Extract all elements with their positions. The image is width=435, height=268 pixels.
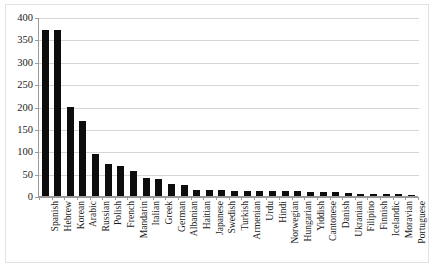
x-axis-tick bbox=[393, 197, 394, 200]
x-axis-tick-label-text: Portuguese bbox=[416, 201, 426, 244]
bar bbox=[282, 191, 289, 196]
bar-slot bbox=[217, 17, 230, 196]
x-axis-tick-label: Polish bbox=[102, 201, 115, 265]
bar-slot bbox=[192, 17, 205, 196]
bar bbox=[294, 191, 301, 196]
x-axis-tick-label: Korean bbox=[64, 201, 77, 265]
x-axis-tick-label: Italian bbox=[140, 201, 153, 265]
x-axis-tick bbox=[165, 197, 166, 200]
x-axis-tick-label: Filipino bbox=[355, 201, 368, 265]
y-axis-tick-label: 350 bbox=[17, 35, 33, 46]
bar-slot bbox=[406, 17, 419, 196]
x-axis-tick-label: Urdu bbox=[254, 201, 267, 265]
x-axis-tick bbox=[279, 197, 280, 200]
y-axis-tick-label: 400 bbox=[17, 13, 33, 24]
bar bbox=[54, 30, 61, 196]
bars-layer bbox=[40, 17, 419, 196]
x-axis-tick bbox=[140, 197, 141, 200]
x-axis-tick bbox=[127, 197, 128, 200]
y-axis-tick-label: 100 bbox=[17, 147, 33, 158]
bar bbox=[193, 190, 200, 196]
x-axis-tick-label: Haitian bbox=[191, 201, 204, 265]
bar-slot bbox=[305, 17, 318, 196]
bar-slot bbox=[331, 17, 344, 196]
x-axis-tick bbox=[52, 197, 53, 200]
x-axis-tick-label: Greek bbox=[153, 201, 166, 265]
bar bbox=[79, 121, 86, 196]
y-axis-tick-label: 300 bbox=[17, 58, 33, 69]
x-axis-tick bbox=[64, 197, 65, 200]
x-axis-tick bbox=[39, 197, 40, 200]
bar-slot bbox=[255, 17, 268, 196]
bar bbox=[92, 154, 99, 196]
bar bbox=[105, 164, 112, 196]
plot-area: 050100150200250300350400 bbox=[38, 18, 418, 197]
bar bbox=[408, 195, 415, 196]
bar bbox=[117, 166, 124, 196]
x-axis-tick-label: Hindi bbox=[266, 201, 279, 265]
x-axis-tick-label: French bbox=[115, 201, 128, 265]
x-axis-tick bbox=[90, 197, 91, 200]
y-axis-tick bbox=[35, 40, 39, 41]
x-axis-tick bbox=[367, 197, 368, 200]
x-axis-labels: SpanishHebrewKoreanArabicRussianPolishFr… bbox=[39, 201, 418, 265]
y-axis-tick bbox=[35, 175, 39, 176]
bar bbox=[67, 107, 74, 196]
bar bbox=[42, 30, 49, 196]
bar-chart: 050100150200250300350400 SpanishHebrewKo… bbox=[0, 0, 435, 268]
bar-slot bbox=[394, 17, 407, 196]
x-axis-tick bbox=[216, 197, 217, 200]
bar-slot bbox=[128, 17, 141, 196]
bar-slot bbox=[53, 17, 66, 196]
x-axis-tick bbox=[405, 197, 406, 200]
x-axis-tick bbox=[292, 197, 293, 200]
x-axis-tick-label: Norwegian bbox=[279, 201, 292, 265]
y-axis-tick-label: 0 bbox=[28, 192, 33, 203]
bar-slot bbox=[179, 17, 192, 196]
x-axis-tick-label: Icelandic bbox=[380, 201, 393, 265]
bar-slot bbox=[381, 17, 394, 196]
x-axis-tick bbox=[317, 197, 318, 200]
bar bbox=[231, 191, 238, 196]
x-axis-tick bbox=[342, 197, 343, 200]
x-axis-tick bbox=[330, 197, 331, 200]
x-axis-tick-label: Yiddish bbox=[304, 201, 317, 265]
x-axis-tick bbox=[203, 197, 204, 200]
x-axis-tick bbox=[115, 197, 116, 200]
x-axis-tick-label: Mandarin bbox=[127, 201, 140, 265]
x-axis-tick bbox=[380, 197, 381, 200]
x-axis-tick bbox=[77, 197, 78, 200]
x-axis-tick-label: Portuguese bbox=[405, 201, 418, 265]
y-axis-tick bbox=[35, 130, 39, 131]
x-axis-tick bbox=[254, 197, 255, 200]
bar bbox=[269, 191, 276, 196]
bar bbox=[256, 191, 263, 196]
y-axis-tick-label: 150 bbox=[17, 125, 33, 136]
bar-slot bbox=[242, 17, 255, 196]
bar-slot bbox=[154, 17, 167, 196]
bar-slot bbox=[368, 17, 381, 196]
bar-slot bbox=[65, 17, 78, 196]
bar-slot bbox=[318, 17, 331, 196]
x-axis-tick-label: German bbox=[165, 201, 178, 265]
bar-slot bbox=[230, 17, 243, 196]
x-axis-tick-label: Hungarian bbox=[292, 201, 305, 265]
bar bbox=[332, 192, 339, 196]
bar bbox=[168, 184, 175, 196]
bar-slot bbox=[267, 17, 280, 196]
x-axis-tick-label: Arabic bbox=[77, 201, 90, 265]
x-axis-tick-label: Turkish bbox=[229, 201, 242, 265]
bar bbox=[130, 171, 137, 197]
bar-slot bbox=[141, 17, 154, 196]
bar bbox=[155, 179, 162, 196]
x-axis-tick bbox=[355, 197, 356, 200]
bar-slot bbox=[166, 17, 179, 196]
x-axis-tick-label: Japanese bbox=[203, 201, 216, 265]
bar bbox=[320, 192, 327, 196]
bar-slot bbox=[103, 17, 116, 196]
bar-slot bbox=[343, 17, 356, 196]
y-axis-tick bbox=[35, 18, 39, 19]
y-axis-tick bbox=[35, 85, 39, 86]
y-axis-tick-label: 200 bbox=[17, 102, 33, 113]
bar bbox=[370, 194, 377, 196]
